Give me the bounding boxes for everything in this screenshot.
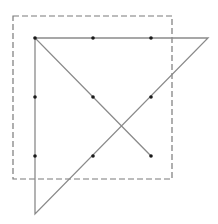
grid-dot: [149, 154, 153, 158]
grid-dot: [33, 95, 37, 99]
nine-dot-diagram: [0, 0, 218, 224]
solution-path: [35, 38, 208, 214]
grid-dot: [91, 154, 95, 158]
grid-dot: [33, 36, 37, 40]
grid-dot: [149, 36, 153, 40]
grid-dot: [149, 95, 153, 99]
grid-dot: [91, 36, 95, 40]
grid-dot: [91, 95, 95, 99]
grid-dot: [33, 154, 37, 158]
